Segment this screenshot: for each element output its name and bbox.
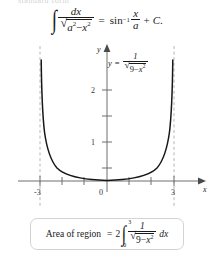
function-label-equals: = xyxy=(115,58,120,68)
integrand-denominator: √ a2−x2 xyxy=(58,17,93,33)
function-label-exponent: 2 xyxy=(143,63,146,69)
arcsine-argument-numerator: x xyxy=(131,8,140,19)
area-statement-coefficient: 2 xyxy=(115,229,120,239)
integrand-fraction: dx √ a2−x2 xyxy=(58,6,93,34)
area-integrand-denominator: √ 9−x2 xyxy=(128,231,156,246)
radicand-x-exponent: 2 xyxy=(87,20,90,27)
formula-equals: = xyxy=(99,14,105,26)
y-axis-label: y xyxy=(96,45,101,54)
integration-constant: C xyxy=(153,14,160,26)
square-root: √ a2−x2 xyxy=(60,18,91,33)
definite-integral: ∫ 3 0 xyxy=(121,226,127,243)
area-statement-equals: = xyxy=(107,229,112,239)
x-axis-arrowhead xyxy=(198,178,206,185)
area-differential: dx xyxy=(159,229,168,239)
integral-upper-limit: 3 xyxy=(128,219,131,225)
formula-left-side: ∫ dx √ a2−x2 xyxy=(51,6,93,34)
radicand: a2−x2 xyxy=(66,19,91,33)
integral-lower-limit: 0 xyxy=(123,242,126,248)
definite-integral-sign: ∫ xyxy=(122,226,126,243)
y-axis-arrowhead xyxy=(104,44,111,52)
integrand-numerator: dx xyxy=(69,6,83,17)
cut-off-text: standard form xyxy=(18,0,168,5)
area-statement-box: Area of region = 2 ∫ 3 0 1 √ 9−x2 dx xyxy=(30,218,184,250)
area-radicand: 9−x2 xyxy=(135,233,154,246)
x-axis-label: x xyxy=(202,185,207,194)
arcsine-exponent: −1 xyxy=(123,16,130,23)
area-statement-words: Area of region xyxy=(46,229,101,239)
y-tick-label-1: 1 xyxy=(91,138,95,147)
function-label-square-root: √ 9−x2 xyxy=(125,62,147,74)
graph-svg: x y -3 0 3 1 2 xyxy=(0,40,214,208)
area-square-root: √ 9−x2 xyxy=(130,232,154,246)
x-tick-label-minus3: -3 xyxy=(34,188,41,197)
function-label-fraction: 1 √ 9−x2 xyxy=(123,52,149,73)
area-radical-sign: √ xyxy=(130,231,136,242)
arcsine-argument-fraction: x a xyxy=(131,8,141,32)
x-tick-label-0: 0 xyxy=(99,188,103,197)
radical-sign: √ xyxy=(60,17,67,29)
function-label: y = 1 √ 9−x2 xyxy=(108,52,148,73)
arcsine-function-name: sin xyxy=(110,14,123,26)
function-label-radicand: 9−x2 xyxy=(129,63,146,74)
formula-plus: + xyxy=(143,14,149,26)
function-label-denominator: √ 9−x2 xyxy=(123,61,149,74)
area-radicand-exponent: 2 xyxy=(150,234,153,240)
cut-off-text-sliver: standard form xyxy=(18,0,168,5)
function-label-y: y xyxy=(108,58,112,68)
x-tick-label-3: 3 xyxy=(171,188,175,197)
function-label-radical-sign: √ xyxy=(125,61,130,71)
formula-right-side: sin−1 x a + C. xyxy=(110,8,163,32)
formula-period: . xyxy=(160,14,163,26)
arcsine-argument-denominator: a xyxy=(131,19,141,31)
function-graph: x y -3 0 3 1 2 y = 1 √ 9−x2 xyxy=(0,40,214,208)
area-integrand-fraction: 1 √ 9−x2 xyxy=(128,222,156,247)
figure-page: standard form ∫ dx √ a2−x2 = sin−1 x a xyxy=(0,0,214,258)
integral-sign: ∫ xyxy=(52,10,57,30)
y-tick-label-2: 2 xyxy=(91,86,95,95)
function-label-numerator: 1 xyxy=(131,52,139,61)
area-integrand-numerator: 1 xyxy=(138,222,147,232)
antiderivative-formula: ∫ dx √ a2−x2 = sin−1 x a + C. xyxy=(0,6,214,34)
